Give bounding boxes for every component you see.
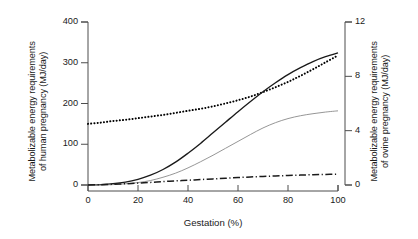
left-axis-title-line1: Metabolizable energy requirements — [27, 11, 38, 211]
x-tick-label: 40 — [173, 195, 203, 205]
right-tick-label: 0 — [355, 179, 385, 189]
right-tick-label: 8 — [355, 70, 385, 80]
x-tick-label: 0 — [73, 195, 103, 205]
x-axis-spine — [88, 185, 338, 191]
x-tick-label: 20 — [123, 195, 153, 205]
plot-area — [0, 0, 418, 239]
series-dotted-rising-series — [88, 55, 338, 123]
chart-figure: Metabolizable energy requirements of hum… — [0, 0, 418, 239]
left-tick-label: 300 — [44, 57, 78, 67]
left-tick-label: 100 — [44, 138, 78, 148]
right-tick-label: 4 — [355, 125, 385, 135]
left-axis-ticks — [81, 22, 88, 185]
x-tick-label: 60 — [223, 195, 253, 205]
right-tick-label: 12 — [355, 16, 385, 26]
right-axis-ticks — [345, 22, 352, 185]
left-tick-label: 400 — [44, 16, 78, 26]
x-tick-label: 100 — [323, 195, 353, 205]
right-axis-spine — [345, 22, 352, 185]
x-tick-label: 80 — [273, 195, 303, 205]
x-axis-ticks — [88, 185, 338, 191]
data-series-layer — [88, 53, 338, 185]
x-axis-title: Gestation (%) — [88, 217, 338, 228]
left-tick-label: 0 — [44, 179, 78, 189]
left-tick-label: 200 — [44, 98, 78, 108]
series-thin-grey-sigmoid-series — [88, 111, 338, 185]
